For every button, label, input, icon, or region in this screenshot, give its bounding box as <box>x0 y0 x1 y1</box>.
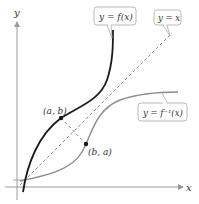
point-a-b <box>59 116 63 120</box>
callout-identity: y = x <box>154 10 181 36</box>
function-curve <box>23 30 113 192</box>
function-inverse-diagram: y x (a, b) (b, a) y = f(x) y = x y = f⁻¹… <box>0 0 199 204</box>
point-a-b-label: (a, b) <box>43 106 67 116</box>
callout-inverse-label: y = f⁻¹(x) <box>142 108 183 118</box>
point-b-a-label: (b, a) <box>88 147 112 157</box>
callout-identity-label: y = x <box>157 13 180 23</box>
callout-f: y = f(x) <box>94 7 136 38</box>
point-b-a <box>84 142 88 146</box>
callout-f-label: y = f(x) <box>98 12 133 22</box>
callout-inverse: y = f⁻¹(x) <box>138 93 187 121</box>
x-axis-label: x <box>186 182 192 193</box>
y-axis-label: y <box>13 7 20 18</box>
